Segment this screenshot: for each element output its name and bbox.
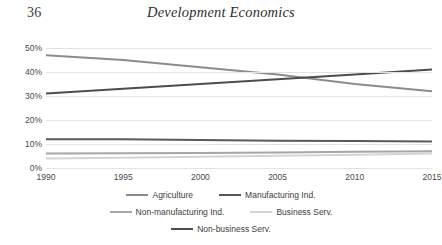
- legend-swatch-icon: [219, 194, 241, 196]
- series-line: [46, 139, 432, 141]
- x-axis-tick-label: 2005: [268, 172, 287, 182]
- legend-label: Agriculture: [152, 190, 193, 200]
- x-axis-tick-label: 2015: [423, 172, 442, 182]
- document-title: Development Economics: [0, 4, 442, 21]
- x-axis-labels: 199019952000200520102015: [46, 172, 432, 186]
- legend-item[interactable]: Manufacturing Ind.: [219, 190, 315, 200]
- legend-row: Non-business Serv.: [0, 221, 442, 237]
- series-line: [46, 151, 432, 153]
- legend-swatch-icon: [110, 211, 132, 213]
- legend-swatch-icon: [126, 194, 148, 196]
- legend-label: Non-manufacturing Ind.: [136, 207, 225, 217]
- plot-area: [46, 48, 432, 168]
- gridline: [46, 96, 432, 97]
- y-axis-tick-label: 40%: [2, 67, 42, 77]
- legend-row: AgricultureManufacturing Ind.: [0, 187, 442, 203]
- gridline: [46, 144, 432, 145]
- x-axis-tick-label: 2010: [345, 172, 364, 182]
- x-axis-tick-label: 1995: [114, 172, 133, 182]
- series-lines: [46, 48, 432, 168]
- gridline: [46, 120, 432, 121]
- y-axis-tick-label: 20%: [2, 115, 42, 125]
- legend-swatch-icon: [250, 211, 272, 213]
- legend-label: Non-business Serv.: [197, 224, 271, 234]
- legend-item[interactable]: Non-manufacturing Ind.: [110, 207, 225, 217]
- gridline: [46, 168, 432, 169]
- legend-label: Business Serv.: [276, 207, 332, 217]
- page-header: 36 Development Economics: [0, 0, 442, 30]
- y-axis-tick-label: 10%: [2, 139, 42, 149]
- y-axis-labels: 0%10%20%30%40%50%: [0, 48, 42, 168]
- series-line: [46, 70, 432, 94]
- legend-item[interactable]: Agriculture: [126, 190, 193, 200]
- chart-legend: AgricultureManufacturing Ind.Non-manufac…: [0, 187, 442, 245]
- legend-item[interactable]: Non-business Serv.: [171, 224, 271, 234]
- y-axis-tick-label: 50%: [2, 43, 42, 53]
- x-axis-tick-label: 2000: [191, 172, 210, 182]
- legend-row: Non-manufacturing Ind.Business Serv.: [0, 204, 442, 220]
- x-axis-tick-label: 1990: [37, 172, 56, 182]
- line-chart: 0%10%20%30%40%50% 1990199520002005201020…: [0, 30, 442, 245]
- y-axis-tick-label: 30%: [2, 91, 42, 101]
- legend-swatch-icon: [171, 228, 193, 230]
- gridline: [46, 72, 432, 73]
- gridline: [46, 48, 432, 49]
- legend-item[interactable]: Business Serv.: [250, 207, 332, 217]
- legend-label: Manufacturing Ind.: [245, 190, 315, 200]
